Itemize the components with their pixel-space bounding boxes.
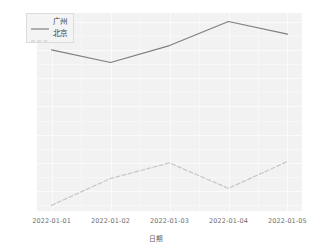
series-line-guangzhou — [52, 21, 288, 62]
series-line-beijing — [52, 162, 288, 206]
x-axis-title: 日期 — [0, 233, 312, 243]
series-layer — [37, 13, 302, 211]
legend-item-beijing[interactable]: 北京 — [31, 29, 67, 39]
legend-swatch-solid-line — [31, 18, 49, 26]
plot-area — [37, 13, 302, 211]
line-chart: 681012141618 2022-01-012022-01-022022-01… — [0, 0, 312, 250]
legend-item-guangzhou[interactable]: 广州 — [31, 17, 67, 27]
legend-swatch-dashed-line — [31, 30, 49, 38]
legend-label-guangzhou: 广州 — [53, 17, 67, 27]
x-tick-label: 2022-01-05 — [252, 217, 312, 225]
legend-label-beijing: 北京 — [53, 29, 67, 39]
legend: 广州 北京 — [26, 13, 74, 43]
